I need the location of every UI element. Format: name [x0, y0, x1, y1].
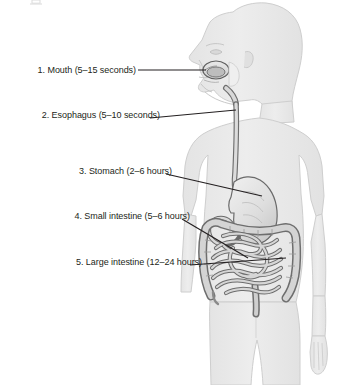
label-stomach: 3. Stomach (2–6 hours)	[79, 166, 172, 176]
eye-icon	[210, 50, 222, 55]
leader-line-esophagus	[150, 110, 236, 118]
tongue	[207, 67, 225, 77]
label-large-intestine: 5. Large intestine (12–24 hours)	[76, 257, 202, 267]
digestive-system-diagram	[0, 0, 350, 385]
label-mouth: 1. Mouth (5–15 seconds)	[38, 65, 136, 75]
top-edge-artifact	[30, 0, 42, 5]
label-esophagus: 2. Esophagus (5–10 seconds)	[42, 110, 160, 120]
label-small-intestine: 4. Small intestine (5–6 hours)	[74, 211, 190, 221]
right-arm	[311, 214, 326, 296]
right-forearm	[312, 296, 326, 336]
